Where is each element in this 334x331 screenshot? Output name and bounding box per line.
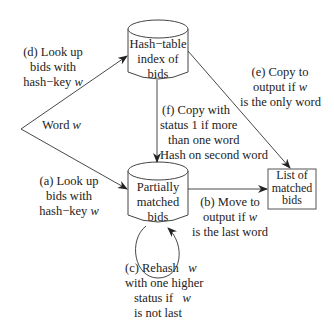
edge-c-var-2: w xyxy=(183,291,191,305)
edge-d-line-2: bids with xyxy=(10,60,96,75)
output-line-1: List of xyxy=(268,169,316,182)
edge-e-label: (e) Copy to output if w is the only word xyxy=(240,65,320,110)
edge-e-line-3: is the only word xyxy=(240,95,320,110)
edge-c-line-1: (c) Rehash xyxy=(125,261,179,275)
input-word-label: Word w xyxy=(42,118,81,133)
edge-e-var: w xyxy=(299,80,307,94)
edge-a-var: w xyxy=(90,204,98,218)
partial-bids-label: Partially matched bids xyxy=(128,180,188,225)
output-list-label: List of matched bids xyxy=(268,169,316,207)
edge-c-label: (c) Rehash w with one higher status if w… xyxy=(125,261,203,321)
hash-index-line-1: Hash−table xyxy=(128,37,188,52)
edge-d-label: (d) Look up bids with hash−key w xyxy=(10,45,96,90)
hash-index-line-3: bids xyxy=(128,67,188,82)
output-line-3: bids xyxy=(268,194,316,207)
edge-a-line-3: hash−key xyxy=(39,204,87,218)
input-word-text: Word xyxy=(42,118,69,132)
edge-b-line-2: output if xyxy=(203,210,246,224)
edge-b-var: w xyxy=(249,210,257,224)
edge-a-line-2: bids with xyxy=(36,189,102,204)
edge-c-line-2: with one higher xyxy=(125,276,203,291)
edge-a-label: (a) Look up bids with hash−key w xyxy=(36,174,102,219)
input-word-var: w xyxy=(73,118,81,132)
edge-f-line-3: than one word xyxy=(160,133,268,148)
partial-line-2: matched xyxy=(128,195,188,210)
hash-index-line-2: index of xyxy=(128,52,188,67)
edge-b-label: (b) Move to output if w is the last word xyxy=(190,195,270,240)
partial-line-1: Partially xyxy=(128,180,188,195)
edge-c-line-4: is not last xyxy=(125,306,203,321)
edge-a-line-1: (a) Look up xyxy=(36,174,102,189)
hash-index-label: Hash−table index of bids xyxy=(128,37,188,82)
edge-f-line-4: Hash on second word xyxy=(160,148,268,163)
edge-b-line-1: (b) Move to xyxy=(190,195,270,210)
edge-f-label: (f) Copy with status 1 if more than one … xyxy=(160,103,268,163)
edge-c-line-3: status if xyxy=(134,291,173,305)
edge-d-line-3: hash−key xyxy=(23,75,71,89)
partial-line-3: bids xyxy=(128,210,188,225)
edge-c-var-1: w xyxy=(188,261,196,275)
edge-b-line-3: is the last word xyxy=(190,225,270,240)
edge-f-line-2: status 1 if more xyxy=(160,118,268,133)
edge-e-line-1: (e) Copy to xyxy=(240,65,320,80)
edge-d-line-1: (d) Look up xyxy=(10,45,96,60)
edge-d-var: w xyxy=(74,75,82,89)
edge-e-line-2: output if xyxy=(253,80,296,94)
